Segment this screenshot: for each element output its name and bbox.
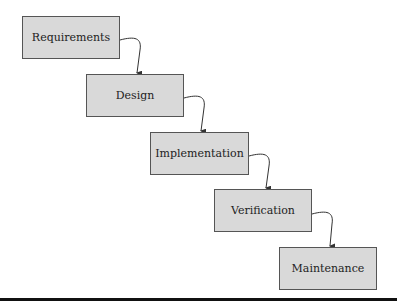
arrow-verification-maintenance xyxy=(312,212,332,246)
stage-label: Maintenance xyxy=(292,262,365,275)
stage-implementation: Implementation xyxy=(150,132,249,175)
stage-maintenance: Maintenance xyxy=(279,247,377,290)
stage-label: Design xyxy=(116,89,155,102)
stage-design: Design xyxy=(86,74,184,117)
stage-label: Verification xyxy=(231,204,295,217)
bottom-rule xyxy=(0,298,397,301)
stage-requirements: Requirements xyxy=(22,16,120,59)
stage-label: Implementation xyxy=(155,147,244,160)
stage-verification: Verification xyxy=(214,189,312,232)
arrow-requirements-design xyxy=(120,38,140,73)
arrow-design-implementation xyxy=(184,96,204,131)
stage-label: Requirements xyxy=(32,31,110,44)
arrow-implementation-verification xyxy=(249,154,269,188)
